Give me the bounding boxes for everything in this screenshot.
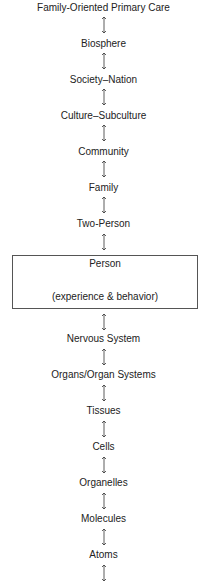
arrow-icon [101,313,107,331]
level-organelles: Organelles [0,477,207,489]
arrow-icon [101,52,107,70]
arrow-icon [101,456,107,474]
person-box: Person (experience & behavior) [12,255,198,309]
level-community: Community [0,146,207,158]
level-cells: Cells [0,441,207,453]
level-molecules: Molecules [0,513,207,525]
arrow-icon [101,160,107,178]
arrow-icon [101,420,107,438]
arrow-icon [101,492,107,510]
arrow-icon [101,124,107,142]
arrow-icon [101,88,107,106]
title: Family-Oriented Primary Care [0,2,207,14]
level-tissues: Tissues [0,405,207,417]
level-biosphere: Biosphere [0,38,207,50]
arrow-icon [101,196,107,214]
level-atoms: Atoms [0,549,207,561]
level-culture-subculture: Culture–Subculture [0,110,207,122]
person-label: Person [13,258,197,270]
arrow-icon [101,384,107,402]
arrow-icon [101,348,107,366]
arrow-icon [101,233,107,251]
level-nervous-system: Nervous System [0,333,207,345]
level-two-person: Two-Person [0,218,207,230]
level-organs: Organs/Organ Systems [0,369,207,381]
arrow-icon [101,564,107,582]
level-society-nation: Society–Nation [0,74,207,86]
person-sublabel: (experience & behavior) [13,291,197,303]
arrow-icon [101,16,107,34]
arrow-icon [101,528,107,546]
level-family: Family [0,182,207,194]
